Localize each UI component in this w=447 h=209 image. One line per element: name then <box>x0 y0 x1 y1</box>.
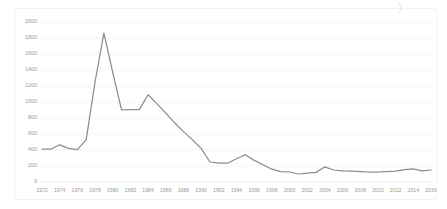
y-axis-tick-labels: 0200400600800100012001400160018002000 <box>25 18 37 184</box>
x-tick-label: 1996 <box>248 187 260 193</box>
x-tick-label: 2016 <box>425 187 437 193</box>
x-tick-label: 1974 <box>54 187 66 193</box>
y-tick-label: 600 <box>28 130 37 136</box>
x-tick-label: 1990 <box>195 187 207 193</box>
x-tick-label: 1984 <box>142 187 154 193</box>
y-tick-label: 1600 <box>25 50 37 56</box>
y-tick-label: 0 <box>34 178 37 184</box>
line-chart: 0200400600800100012001400160018002000 19… <box>0 0 447 209</box>
x-tick-label: 1978 <box>89 187 101 193</box>
x-axis-tick-labels: 1972197419761978198019821984198619881990… <box>36 187 437 193</box>
y-tick-label: 800 <box>28 114 37 120</box>
x-tick-label: 2004 <box>319 187 331 193</box>
x-tick-label: 1976 <box>72 187 84 193</box>
x-tick-label: 2012 <box>390 187 402 193</box>
x-tick-label: 1994 <box>231 187 243 193</box>
x-tick-label: 1988 <box>178 187 190 193</box>
chart-container: 0200400600800100012001400160018002000 19… <box>0 0 447 209</box>
y-tick-label: 1000 <box>25 98 37 104</box>
x-tick-label: 2002 <box>301 187 313 193</box>
x-tick-label: 2014 <box>408 187 420 193</box>
x-tick-label: 1980 <box>107 187 119 193</box>
x-tick-label: 2008 <box>354 187 366 193</box>
x-tick-label: 1986 <box>160 187 172 193</box>
gridlines <box>40 22 431 182</box>
x-tick-label: 1998 <box>266 187 278 193</box>
y-tick-label: 400 <box>28 146 37 152</box>
x-tick-label: 1972 <box>36 187 48 193</box>
y-tick-label: 1800 <box>25 34 37 40</box>
x-tick-label: 2006 <box>337 187 349 193</box>
x-tick-label: 1992 <box>213 187 225 193</box>
y-tick-label: 1400 <box>25 66 37 72</box>
y-tick-label: 200 <box>28 162 37 168</box>
y-tick-label: 1200 <box>25 82 37 88</box>
y-tick-label: 2000 <box>25 18 37 24</box>
x-tick-label: 2000 <box>284 187 296 193</box>
x-tick-label: 2010 <box>372 187 384 193</box>
x-tick-label: 1982 <box>125 187 137 193</box>
